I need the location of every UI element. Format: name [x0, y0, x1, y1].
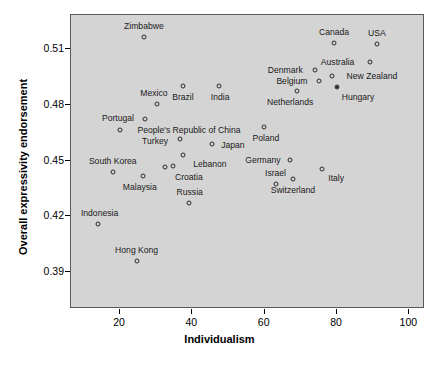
data-point[interactable] [186, 200, 191, 205]
data-point[interactable] [154, 101, 159, 106]
data-point[interactable] [316, 78, 321, 83]
y-axis-tick-label: 0.51 [44, 42, 64, 54]
plot-panel: ZimbabweCanadaUSAAustraliaDenmarkNew Zea… [70, 14, 424, 308]
data-point[interactable] [118, 127, 123, 132]
scatter-plot-figure: ZimbabweCanadaUSAAustraliaDenmarkNew Zea… [0, 0, 439, 371]
data-point-label: Malaysia [123, 183, 157, 192]
data-point-label: Switzerland [271, 186, 315, 195]
data-point-label: Croatia [175, 173, 203, 182]
y-axis-tick-label: 0.45 [44, 154, 64, 166]
y-axis-tick-label: 0.48 [44, 98, 64, 110]
data-point[interactable] [320, 167, 325, 172]
data-point[interactable] [178, 136, 183, 141]
y-axis-tick-label: 0.39 [44, 265, 64, 277]
data-point-label: Hungary [342, 93, 374, 102]
y-axis-tick [65, 215, 70, 216]
data-point-label: Germany [245, 156, 280, 165]
data-point-label: Poland [253, 134, 280, 143]
y-axis-tick [65, 104, 70, 105]
data-point[interactable] [295, 88, 300, 93]
x-axis-tick-label: 100 [400, 316, 418, 328]
y-axis-tick [65, 160, 70, 161]
x-axis-tick [119, 309, 120, 314]
data-point-label: Japan [221, 141, 244, 150]
data-point[interactable] [141, 34, 146, 39]
data-point[interactable] [332, 40, 337, 45]
x-axis-title: Individualism [0, 333, 439, 345]
data-point-label: Zimbabwe [124, 22, 164, 31]
data-point-label: Italy [328, 174, 344, 183]
x-axis-tick [191, 309, 192, 314]
x-axis-tick-label: 60 [258, 316, 270, 328]
data-point-label: Australia [321, 58, 354, 67]
data-point-label: Brazil [172, 92, 194, 101]
data-point-label: Portugal [102, 114, 134, 123]
x-axis-tick-label: 40 [185, 316, 197, 328]
data-point-label: Russia [177, 187, 203, 196]
data-point-label: Israel [265, 169, 286, 178]
data-point-label: Mexico [140, 89, 167, 98]
data-point-label: Indonesia [81, 209, 118, 218]
x-axis-tick-label: 20 [113, 316, 125, 328]
data-point-label: Netherlands [267, 98, 313, 107]
data-point[interactable] [335, 84, 340, 89]
data-point[interactable] [287, 158, 292, 163]
x-axis-tick-label: 80 [330, 316, 342, 328]
data-point[interactable] [140, 174, 145, 179]
y-axis-title: Overall expressivity endorsement [17, 27, 29, 307]
x-axis-tick [336, 309, 337, 314]
data-point[interactable] [142, 116, 147, 121]
y-axis-tick-label: 0.42 [44, 209, 64, 221]
y-axis-tick [65, 48, 70, 49]
data-point[interactable] [110, 170, 115, 175]
data-point[interactable] [209, 141, 214, 146]
data-point[interactable] [313, 67, 318, 72]
data-point[interactable] [95, 222, 100, 227]
data-point-label: People's Republic of China [138, 126, 241, 135]
data-point-label: Turkey [142, 137, 168, 146]
data-point-label: Belgium [276, 76, 307, 85]
data-point-label: New Zealand [347, 71, 398, 80]
data-point-label: South Korea [89, 157, 137, 166]
data-point[interactable] [367, 59, 372, 64]
data-point-label: Denmark [268, 66, 303, 75]
x-axis-tick [264, 309, 265, 314]
data-point[interactable] [170, 164, 175, 169]
data-point-label: Canada [319, 27, 349, 36]
data-point-label: Lebanon [193, 160, 226, 169]
data-point[interactable] [374, 41, 379, 46]
data-point[interactable] [180, 83, 185, 88]
data-point-label: USA [368, 28, 386, 37]
data-point[interactable] [329, 73, 334, 78]
data-point[interactable] [162, 165, 167, 170]
data-point[interactable] [180, 153, 185, 158]
data-point[interactable] [217, 83, 222, 88]
data-point[interactable] [134, 259, 139, 264]
data-point-label: Hong Kong [115, 246, 158, 255]
y-axis-tick [65, 271, 70, 272]
data-point-label: India [211, 92, 230, 101]
data-point[interactable] [290, 177, 295, 182]
x-axis-tick [408, 309, 409, 314]
data-point[interactable] [261, 125, 266, 130]
